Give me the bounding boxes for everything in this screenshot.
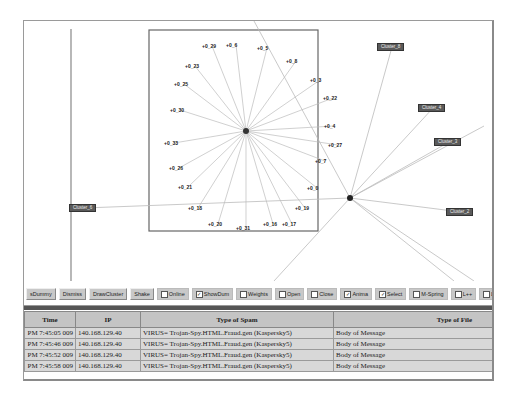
- table-body: 009 7:45:05 PM140.168.129.40VIRUS= Troja…: [25, 328, 495, 372]
- cluster-node[interactable]: Cluster_4: [418, 104, 445, 112]
- table-cell: Body of Message: [334, 361, 495, 372]
- graph-edges: [24, 21, 494, 281]
- table-cell: Body of Message: [334, 328, 495, 339]
- unchecked-icon[interactable]: [240, 291, 247, 298]
- checkbox-label: ShowDum: [204, 291, 229, 297]
- m-spring-checkbox[interactable]: M-Spring: [409, 288, 447, 300]
- graph-node[interactable]: +0_16: [263, 221, 277, 227]
- cluster-node[interactable]: Cluster_3: [434, 138, 461, 146]
- unchecked-icon[interactable]: [455, 291, 462, 298]
- table-row[interactable]: 009 7:45:58 PM140.168.129.40VIRUS= Troja…: [25, 361, 495, 372]
- graph-node[interactable]: +0_5: [257, 45, 268, 51]
- graph-node[interactable]: +0_27: [328, 142, 342, 148]
- cluster-node[interactable]: Cluster_2: [446, 208, 473, 216]
- table-cell: 140.168.129.40: [76, 350, 141, 361]
- checkbox-label: Close: [319, 291, 333, 297]
- graph-node[interactable]: +0_21: [178, 184, 192, 190]
- graph-node[interactable]: +0_30: [170, 107, 184, 113]
- online-checkbox[interactable]: Online: [157, 288, 189, 300]
- table-cell: 009 7:45:58 PM: [25, 361, 76, 372]
- graph-node[interactable]: +0_6: [226, 42, 237, 48]
- table-row[interactable]: 009 7:45:05 PM140.168.129.40VIRUS= Troja…: [25, 328, 495, 339]
- table-cell: VIRUS= Trojan-Spy.HTML.Fraud.gen (Kasper…: [141, 339, 334, 350]
- table-cell: VIRUS= Trojan-Spy.HTML.Fraud.gen (Kasper…: [141, 350, 334, 361]
- table-cell: Body of Message: [334, 339, 495, 350]
- toolbar: sDummyDismissDrawClusterShakeOnline✓Show…: [24, 286, 494, 302]
- table-cell: 140.168.129.40: [76, 339, 141, 350]
- checkbox-label: L++: [463, 291, 472, 297]
- table-row[interactable]: 009 7:45:52 PM140.168.129.40VIRUS= Troja…: [25, 350, 495, 361]
- graph-node[interactable]: +0_18: [188, 205, 202, 211]
- select-checkbox[interactable]: ✓Select: [375, 288, 406, 300]
- table-cell: 009 7:45:46 PM: [25, 339, 76, 350]
- table-cell: 140.168.129.40: [76, 328, 141, 339]
- table-cell: Body of Message: [334, 350, 495, 361]
- column-header[interactable]: Type of Spam: [141, 312, 334, 328]
- column-header[interactable]: Time: [25, 312, 76, 328]
- checkbox-label: L--: [491, 291, 494, 297]
- column-header[interactable]: IP: [76, 312, 141, 328]
- checkbox-label: Weights: [248, 291, 268, 297]
- graph-node[interactable]: +0_23: [185, 63, 199, 69]
- l--checkbox[interactable]: L++: [451, 288, 476, 300]
- table-cell: 009 7:45:05 PM: [25, 328, 76, 339]
- dismiss-button[interactable]: Dismiss: [59, 288, 86, 300]
- shake-button[interactable]: Shake: [130, 288, 154, 300]
- checkbox-label: Open: [287, 291, 300, 297]
- cluster-node[interactable]: Cluster_8: [377, 43, 404, 51]
- graph-node[interactable]: +0_3: [310, 77, 321, 83]
- graph-canvas[interactable]: +0_29+0_6+0_5+0_8+0_23+0_3+0_25+0_22+0_3…: [24, 21, 494, 281]
- app-window: +0_29+0_6+0_5+0_8+0_23+0_3+0_25+0_22+0_3…: [23, 20, 494, 381]
- showdum-checkbox[interactable]: ✓ShowDum: [192, 288, 233, 300]
- graph-node[interactable]: +0_17: [282, 221, 296, 227]
- graph-node[interactable]: +0_4: [324, 123, 335, 129]
- unchecked-icon[interactable]: [311, 291, 318, 298]
- unchecked-icon[interactable]: [279, 291, 286, 298]
- graph-node[interactable]: +0_26: [169, 165, 183, 171]
- checked-icon[interactable]: ✓: [344, 291, 351, 298]
- drawcluster-button[interactable]: DrawCluster: [89, 288, 127, 300]
- graph-node[interactable]: +0_20: [208, 221, 222, 227]
- table-cell: 140.168.129.40: [76, 361, 141, 372]
- checkbox-label: Select: [387, 291, 402, 297]
- graph-node[interactable]: +0_19: [295, 205, 309, 211]
- l--checkbox[interactable]: L--: [479, 288, 494, 300]
- table-row[interactable]: 009 7:45:46 PM140.168.129.40VIRUS= Troja…: [25, 339, 495, 350]
- divider: [24, 305, 494, 310]
- weights-checkbox[interactable]: Weights: [236, 288, 272, 300]
- checkbox-label: Anima: [352, 291, 368, 297]
- cluster-node[interactable]: Cluster_6: [69, 204, 96, 212]
- table-cell: VIRUS= Trojan-Spy.HTML.Fraud.gen (Kasper…: [141, 361, 334, 372]
- unchecked-icon[interactable]: [161, 291, 168, 298]
- anima-checkbox[interactable]: ✓Anima: [340, 288, 372, 300]
- spam-table[interactable]: TimeIPType of SpamType of File 009 7:45:…: [24, 311, 494, 379]
- graph-node[interactable]: +0_29: [202, 43, 216, 49]
- graph-node[interactable]: +0_33: [164, 140, 178, 146]
- checkbox-label: M-Spring: [421, 291, 443, 297]
- graph-node[interactable]: +0_0: [307, 185, 318, 191]
- graph-node[interactable]: +0_22: [323, 95, 337, 101]
- sdummy-button[interactable]: sDummy: [26, 288, 56, 300]
- table-cell: VIRUS= Trojan-Spy.HTML.Fraud.gen (Kasper…: [141, 328, 334, 339]
- graph-node[interactable]: +0_31: [236, 225, 250, 231]
- graph-node[interactable]: +0_7: [315, 158, 326, 164]
- checkbox-label: Online: [169, 291, 185, 297]
- table-cell: 009 7:45:52 PM: [25, 350, 76, 361]
- checked-icon[interactable]: ✓: [196, 291, 203, 298]
- checked-icon[interactable]: ✓: [379, 291, 386, 298]
- unchecked-icon[interactable]: [413, 291, 420, 298]
- unchecked-icon[interactable]: [483, 291, 490, 298]
- table-header-row: TimeIPType of SpamType of File: [25, 312, 495, 328]
- graph-node[interactable]: +0_8: [286, 58, 297, 64]
- open-checkbox[interactable]: Open: [275, 288, 304, 300]
- close-checkbox[interactable]: Close: [307, 288, 337, 300]
- graph-node[interactable]: +0_25: [174, 81, 188, 87]
- column-header[interactable]: Type of File: [334, 312, 495, 328]
